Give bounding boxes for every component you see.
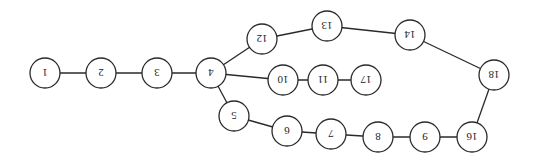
node-1: 1 [30,58,60,88]
node-13: 13 [312,11,342,41]
node-label: 3 [154,67,160,79]
node-17: 17 [351,65,381,95]
node-label: 16 [466,131,478,143]
node-label: 17 [360,74,372,86]
node-6: 6 [272,116,302,146]
node-11: 11 [308,65,338,95]
node-label: 18 [488,69,500,81]
node-label: 4 [208,67,214,79]
node-14: 14 [395,20,425,50]
node-5: 5 [219,101,249,131]
node-9: 9 [410,122,440,152]
node-2: 2 [86,58,116,88]
node-label: 9 [422,131,428,143]
node-7: 7 [316,119,346,149]
node-18: 18 [479,60,509,90]
node-label: 10 [277,74,289,86]
node-3: 3 [142,58,172,88]
nodes-layer: 1234121314181011175678916 [30,11,509,152]
node-label: 11 [318,74,329,86]
node-label: 5 [231,110,237,122]
node-label: 2 [98,67,104,79]
graph-diagram: 1234121314181011175678916 [0,0,535,164]
node-8: 8 [363,122,393,152]
node-10: 10 [268,65,298,95]
node-label: 12 [257,33,268,45]
node-label: 7 [328,128,334,140]
node-label: 13 [321,20,333,32]
node-4: 4 [196,58,226,88]
node-label: 8 [375,131,381,143]
node-label: 1 [42,67,48,79]
node-12: 12 [247,24,277,54]
node-label: 14 [404,29,416,41]
node-16: 16 [457,122,487,152]
node-label: 6 [284,125,290,137]
